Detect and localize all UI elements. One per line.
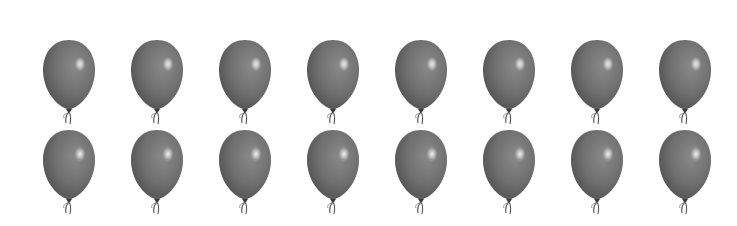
balloon-icon [127, 129, 187, 215]
balloon-icon [127, 39, 187, 125]
balloon-icon [655, 129, 715, 215]
balloon-icon [303, 39, 363, 125]
balloon-grid [0, 0, 737, 226]
balloon-icon [567, 129, 627, 215]
balloon-icon [39, 129, 99, 215]
balloon-icon [303, 129, 363, 215]
balloon-icon [215, 39, 275, 125]
balloon-icon [479, 39, 539, 125]
balloon-icon [391, 129, 451, 215]
balloon-icon [655, 39, 715, 125]
balloon-icon [39, 39, 99, 125]
balloon-icon [479, 129, 539, 215]
balloon-icon [391, 39, 451, 125]
balloon-icon [567, 39, 627, 125]
balloon-icon [215, 129, 275, 215]
